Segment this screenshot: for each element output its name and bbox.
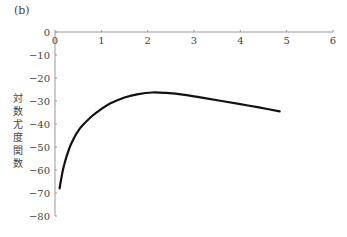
x-tick-label: 1 [98,35,104,46]
y-tick-label: −50 [29,142,50,153]
y-tick-label: −40 [29,119,50,130]
y-tick-label: −30 [29,96,50,107]
x-tick-label: 5 [283,35,289,46]
x-tick-label: 3 [191,35,197,46]
y-tick-label: −10 [29,50,50,61]
x-tick-label: 0 [52,35,58,46]
x-tick-label: 2 [144,35,150,46]
y-tick-label: −20 [29,73,50,84]
y-tick-label: −60 [29,165,50,176]
y-tick-label: 0 [44,27,50,38]
data-line [60,92,280,188]
x-tick-label: 6 [330,35,336,46]
x-tick-label: 4 [237,35,243,46]
y-axis-label-char: 数 [12,105,24,118]
y-axis-label-char: 度 [12,131,24,144]
y-axis-label-char: 尤 [12,118,24,131]
line-chart: 01234560−10−20−30−40−50−60−70−80 [0,0,347,237]
y-tick-label: −70 [29,188,50,199]
y-axis-label-char: 関 [12,144,24,157]
y-axis-label: 対数尤度関数 [12,92,24,170]
y-axis-label-char: 数 [12,157,24,170]
y-tick-label: −80 [29,211,50,222]
y-axis-label-char: 対 [12,92,24,105]
